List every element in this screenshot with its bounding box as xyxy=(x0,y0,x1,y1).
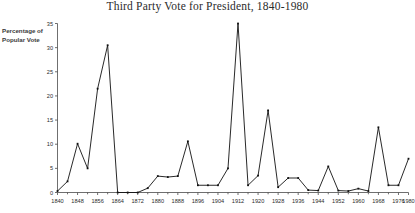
data-point xyxy=(357,188,359,190)
data-point xyxy=(367,190,369,192)
x-tick-label: 1936 xyxy=(292,198,304,204)
data-point xyxy=(408,158,410,160)
data-point xyxy=(347,190,349,192)
x-tick-label: 1888 xyxy=(172,198,184,204)
data-point xyxy=(247,184,249,186)
x-tick-label: 1928 xyxy=(272,198,284,204)
data-point xyxy=(57,190,59,192)
x-tick-label: 1872 xyxy=(132,198,144,204)
data-point xyxy=(207,184,209,186)
x-tick-label: 1864 xyxy=(111,198,123,204)
data-point xyxy=(117,192,119,194)
data-point xyxy=(87,167,89,169)
x-tick-label: 1960 xyxy=(352,198,364,204)
data-point xyxy=(197,184,199,186)
chart-figure: Third Party Vote for President, 1840-198… xyxy=(0,0,415,213)
data-series xyxy=(57,23,410,194)
data-point xyxy=(127,192,129,194)
data-point xyxy=(257,175,259,177)
data-point xyxy=(237,23,239,25)
data-point xyxy=(107,44,109,46)
y-tick-label: 5 xyxy=(50,165,53,171)
data-point xyxy=(267,110,269,112)
y-tick-label: 20 xyxy=(47,93,53,99)
x-tick-label: 1912 xyxy=(232,198,244,204)
x-tick-label: 1920 xyxy=(252,198,264,204)
y-tick-label: 10 xyxy=(47,141,53,147)
data-point xyxy=(227,167,229,169)
data-point xyxy=(167,176,169,178)
x-tick-label: 1856 xyxy=(91,198,103,204)
data-point xyxy=(177,175,179,177)
data-point xyxy=(147,187,149,189)
data-point xyxy=(378,126,380,128)
x-tick-label: 1896 xyxy=(192,198,204,204)
y-tick-label: 0 xyxy=(50,190,53,196)
y-tick-label: 35 xyxy=(47,21,53,27)
x-tick-label: 1904 xyxy=(212,198,224,204)
data-point xyxy=(97,88,99,90)
x-tick-label: 1980 xyxy=(402,198,414,204)
data-point xyxy=(297,177,299,179)
data-point xyxy=(398,184,400,186)
data-point xyxy=(327,166,329,168)
x-tick-label: 1848 xyxy=(71,198,83,204)
data-point xyxy=(77,143,79,145)
x-tick-label: 1952 xyxy=(332,198,344,204)
y-tick-label: 30 xyxy=(47,45,53,51)
x-tick-label: 1840 xyxy=(51,198,63,204)
data-point xyxy=(217,184,219,186)
data-point xyxy=(287,177,289,179)
x-tick-label: 1880 xyxy=(152,198,164,204)
y-axis: 05101520253035 xyxy=(47,21,58,196)
y-tick-label: 15 xyxy=(47,117,53,123)
data-point xyxy=(388,184,390,186)
data-point xyxy=(337,190,339,192)
y-tick-label: 25 xyxy=(47,69,53,75)
data-point xyxy=(137,192,139,194)
chart-plot-area: 05101520253035 1840184818561864187218801… xyxy=(0,0,415,213)
data-point xyxy=(187,140,189,142)
data-point xyxy=(317,190,319,192)
data-point xyxy=(157,175,159,177)
x-axis: 1840184818561864187218801888189619041912… xyxy=(51,193,414,204)
data-point xyxy=(67,180,69,182)
x-tick-label: 1968 xyxy=(372,198,384,204)
data-point xyxy=(277,186,279,188)
x-tick-label: 1944 xyxy=(312,198,324,204)
data-point xyxy=(307,189,309,191)
series-line xyxy=(58,24,409,193)
